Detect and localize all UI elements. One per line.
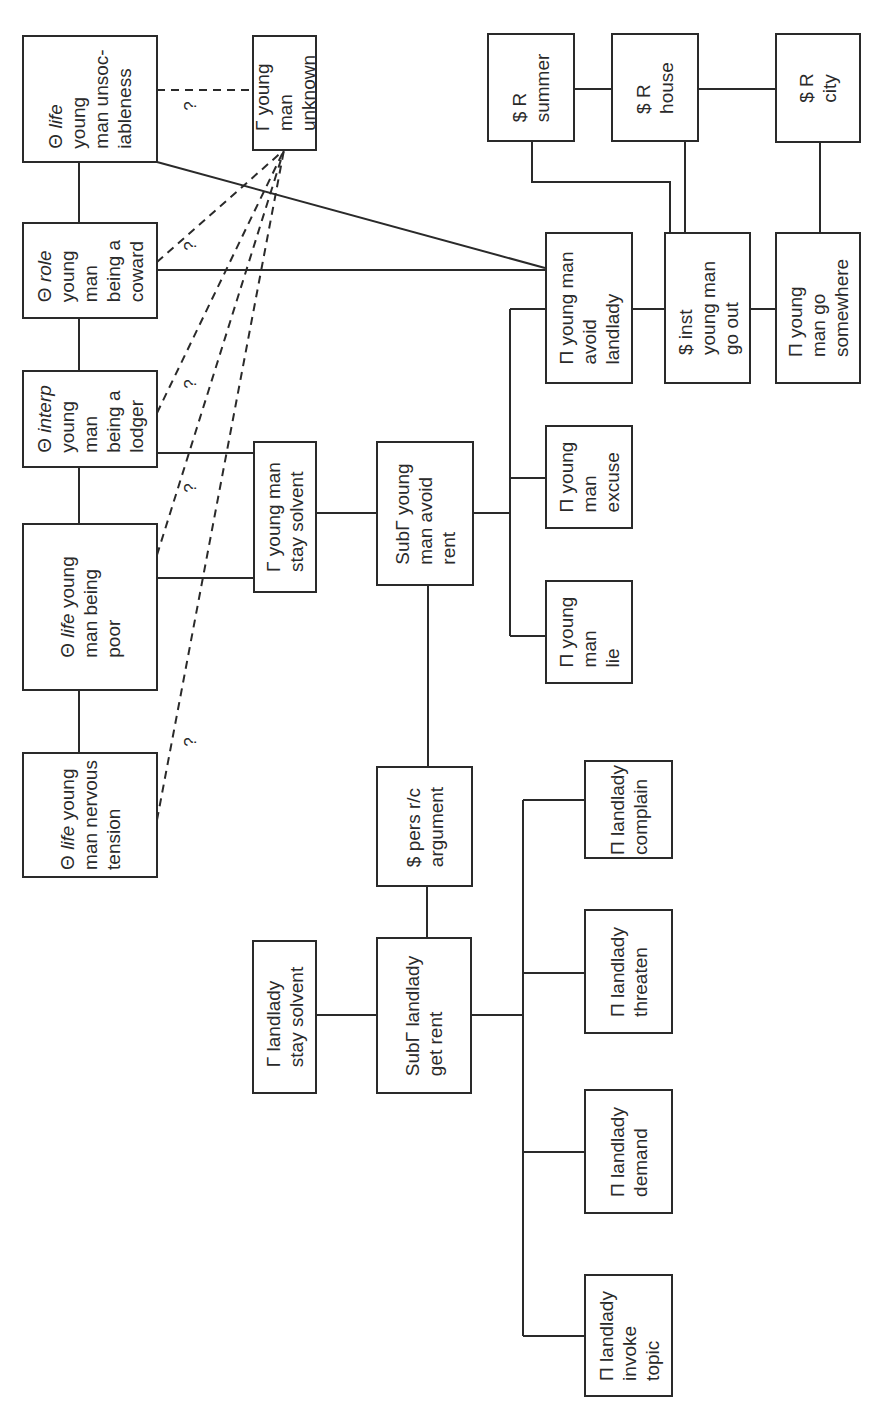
node-interp-lodger: Θ interpyoungmanbeing alodger bbox=[22, 370, 158, 468]
node-landlady-threaten: Π landladythreaten bbox=[584, 909, 673, 1034]
uncertain-label: ? bbox=[181, 737, 201, 746]
node-young-man-go-somewhere: Π youngman gosomewhere bbox=[775, 232, 861, 384]
node-sub-young-man-avoid-rent: SubΓ youngman avoidrent bbox=[376, 441, 474, 586]
node-role-coward: Θ roleyoungmanbeing acoward bbox=[22, 222, 158, 319]
plot-unit-diagram: ? ? ? ? ? Θ lifeyoungman unsoc-iableness… bbox=[0, 0, 883, 1406]
dashed-edge-lodger-unknown bbox=[157, 150, 284, 413]
node-inst-young-man-go-out: $ instyoung mango out bbox=[664, 232, 751, 384]
node-landlady-demand: Π landladydemand bbox=[584, 1089, 673, 1214]
node-young-man-lie: Π youngmanlie bbox=[545, 580, 633, 684]
uncertain-label: ? bbox=[181, 101, 201, 110]
node-landlady-invoke-topic: Π landladyinvoketopic bbox=[584, 1274, 673, 1397]
node-young-man-unknown: Γ youngmanunknown bbox=[252, 35, 317, 151]
uncertain-label: ? bbox=[181, 483, 201, 492]
node-life-poor: Θ life youngman beingpoor bbox=[22, 523, 158, 691]
uncertain-label: ? bbox=[181, 379, 201, 388]
connector-layer bbox=[0, 0, 883, 1406]
node-life-unsociableness: Θ lifeyoungman unsoc-iableness bbox=[22, 35, 158, 163]
node-young-man-avoid-landlady: Π young manavoidlandlady bbox=[545, 232, 633, 384]
node-life-nervous-tension: Θ life youngman nervoustension bbox=[22, 752, 158, 878]
node-young-man-excuse: Π youngmanexcuse bbox=[545, 425, 633, 529]
node-young-man-stay-solvent: Γ young manstay solvent bbox=[253, 441, 317, 593]
node-sub-landlady-get-rent: SubΓ landladyget rent bbox=[376, 937, 472, 1094]
node-landlady-stay-solvent: Γ landladystay solvent bbox=[252, 940, 317, 1094]
node-r-house: $ Rhouse bbox=[611, 33, 699, 142]
node-pers-rc-argument: $ pers r/cargument bbox=[376, 766, 473, 887]
node-r-summer: $ Rsummer bbox=[487, 33, 575, 142]
edge-unsociableness-avoidlandlady bbox=[157, 162, 545, 268]
node-r-city: $ Rcity bbox=[775, 33, 861, 143]
edge-summer-goout bbox=[532, 141, 670, 232]
node-landlady-complain: Π landladycomplain bbox=[584, 760, 673, 859]
uncertain-label: ? bbox=[181, 241, 201, 250]
